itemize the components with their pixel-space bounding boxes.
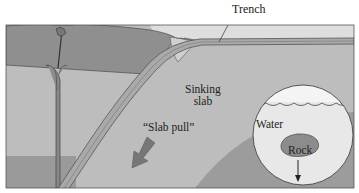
sinking-slab-label: Sinking slab — [185, 83, 221, 107]
volcano-plume — [48, 8, 66, 18]
slab-pull-label: “Slab pull” — [143, 122, 194, 133]
sinking-slab-label-line2: slab — [185, 95, 221, 107]
trench-label: Trench — [232, 4, 266, 15]
volcano — [52, 17, 74, 25]
subduction-diagram — [0, 0, 359, 193]
rock-label: Rock — [288, 145, 312, 156]
water-label: Water — [256, 119, 283, 130]
sinking-slab-label-line1: Sinking — [185, 83, 221, 95]
